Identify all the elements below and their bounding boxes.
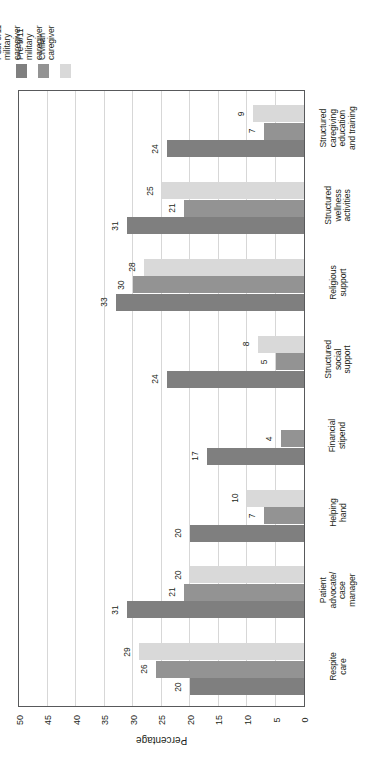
- legend-item-civilian: Civilian caregiver: [58, 6, 80, 78]
- bar-value-label: 31: [109, 599, 121, 621]
- category-label-text: Helping hand: [328, 499, 347, 527]
- legend-label-post-911: Post-9/11 military caregiver: [0, 0, 14, 60]
- bars-layer: 9724252131283033852441710720202131292620: [19, 91, 304, 706]
- category-label-text: Respite care: [328, 652, 347, 680]
- value-tick-text: 5: [265, 717, 287, 722]
- category-label: Structured social support: [306, 321, 370, 398]
- bar-value-label: 20: [172, 676, 184, 698]
- value-tick-label: 35: [96, 709, 116, 731]
- bar-value-label: 8: [240, 333, 252, 355]
- bar: [207, 448, 304, 465]
- legend-label-civilian: Civilian caregiver: [38, 0, 58, 60]
- value-tick-label: 5: [267, 709, 287, 731]
- value-tick-text: 20: [180, 715, 202, 725]
- value-tick-text: 30: [123, 715, 145, 725]
- category-label-text: Structured caregiving education and trai…: [319, 107, 357, 151]
- bar-value-label: 24: [149, 368, 161, 390]
- axis-title-percentage: Percentage: [18, 735, 305, 753]
- legend-swatch-pre-911: [38, 64, 49, 78]
- bar: [281, 430, 304, 447]
- bar-value-label: 9: [235, 103, 247, 125]
- value-tick-label: 20: [181, 709, 201, 731]
- bar: [167, 140, 304, 157]
- bar: [127, 601, 304, 618]
- bar: [162, 182, 305, 199]
- bar-value-label: 17: [189, 445, 201, 467]
- bar-value-label: 24: [149, 138, 161, 160]
- bar: [276, 353, 305, 370]
- value-tick-label: 25: [153, 709, 173, 731]
- bar-value-label: 21: [166, 581, 178, 603]
- value-tick-label: 50: [10, 709, 30, 731]
- value-tick-label: 30: [124, 709, 144, 731]
- bar-value-label: 10: [229, 487, 241, 509]
- bar: [264, 507, 304, 524]
- bar-value-label: 28: [126, 256, 138, 278]
- bar-value-label: 21: [166, 197, 178, 219]
- category-label: Structured wellness activities: [306, 167, 370, 244]
- bar-value-label: 26: [138, 658, 150, 680]
- category-label: Structured caregiving education and trai…: [306, 90, 370, 167]
- bar: [247, 490, 304, 507]
- value-tick-text: 0: [294, 717, 316, 722]
- bar-value-label: 31: [109, 215, 121, 237]
- bar-value-label: 25: [144, 180, 156, 202]
- axis-title-text: Percentage: [136, 735, 187, 746]
- category-label-text: Patient advocate/ case manager: [319, 572, 357, 608]
- bar: [184, 200, 304, 217]
- category-label-text: Structured social support: [324, 340, 353, 379]
- bar: [127, 217, 304, 234]
- value-tick-text: 10: [237, 715, 259, 725]
- bar-value-label: 5: [258, 351, 270, 373]
- value-tick-text: 25: [151, 715, 173, 725]
- legend-swatch-civilian: [60, 64, 71, 78]
- value-tick-text: 50: [9, 715, 31, 725]
- bar: [190, 566, 304, 583]
- value-axis-ticks: 50454035302520151050: [18, 709, 305, 737]
- chart-legend: Post-9/11 military caregiver Pre-9/11 mi…: [14, 6, 84, 78]
- category-label: Financial stipend: [306, 398, 370, 475]
- category-label-text: Financial stipend: [328, 419, 347, 453]
- legend-swatch-post-911: [16, 64, 27, 78]
- legend-label-pre-911: Pre-9/11 military caregiver: [16, 0, 36, 60]
- bar-value-label: 20: [172, 522, 184, 544]
- category-label: Respite care: [306, 628, 370, 705]
- category-label: Patient advocate/ case manager: [306, 551, 370, 628]
- bar: [144, 259, 304, 276]
- bar: [167, 371, 304, 388]
- category-axis: Structured caregiving education and trai…: [306, 90, 370, 707]
- bar: [253, 105, 304, 122]
- category-label-text: Structured wellness activities: [324, 186, 353, 225]
- value-tick-label: 0: [295, 709, 315, 731]
- category-label: Helping hand: [306, 474, 370, 551]
- value-tick-label: 15: [210, 709, 230, 731]
- category-label-text: Religious support: [328, 265, 347, 299]
- bar: [190, 678, 304, 695]
- bar: [264, 123, 304, 140]
- bar-value-label: 33: [98, 291, 110, 313]
- value-tick-label: 45: [39, 709, 59, 731]
- bar-value-label: 4: [263, 428, 275, 450]
- value-tick-text: 40: [66, 715, 88, 725]
- category-label: Religious support: [306, 244, 370, 321]
- chart-plot-area: 9724252131283033852441710720202131292620: [18, 90, 305, 707]
- value-tick-text: 15: [208, 715, 230, 725]
- bar-value-label: 30: [115, 274, 127, 296]
- value-tick-label: 10: [238, 709, 258, 731]
- value-tick-text: 35: [94, 715, 116, 725]
- bar: [139, 643, 304, 660]
- bar: [184, 584, 304, 601]
- bar-value-label: 29: [121, 641, 133, 663]
- bar: [116, 294, 304, 311]
- value-tick-text: 45: [37, 715, 59, 725]
- bar-value-label: 7: [246, 120, 258, 142]
- value-tick-label: 40: [67, 709, 87, 731]
- bar: [190, 525, 304, 542]
- bar: [133, 276, 304, 293]
- bar-value-label: 7: [246, 505, 258, 527]
